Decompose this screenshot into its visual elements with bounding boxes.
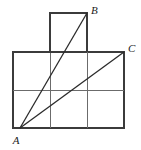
figure-container: A B C <box>0 0 141 150</box>
point-label-c: C <box>128 42 136 54</box>
top-square-outline <box>50 13 87 52</box>
geometry-figure: A B C <box>0 0 141 150</box>
point-label-a: A <box>12 134 20 146</box>
segment-ab <box>20 13 87 128</box>
point-label-b: B <box>91 4 98 16</box>
